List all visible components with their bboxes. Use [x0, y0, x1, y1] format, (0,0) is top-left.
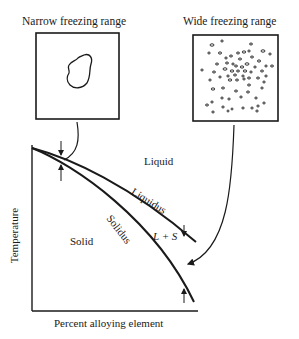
- phase-diagram-figure: [0, 0, 299, 339]
- region-label-solid: Solid: [70, 236, 93, 247]
- narrow-range-title: Narrow freezing range: [22, 16, 126, 28]
- single-grain-blob: [67, 55, 91, 88]
- x-axis-label: Percent alloying element: [54, 318, 163, 329]
- region-label-liquid: Liquid: [144, 156, 173, 167]
- narrow-range-microstructure-box: [36, 33, 119, 119]
- wide-range-microstructure-box: [193, 35, 278, 121]
- region-label-mushy-zone: L + S: [153, 231, 177, 242]
- wide-range-title: Wide freezing range: [183, 16, 276, 28]
- wide-panel-connector-arrow: [188, 125, 234, 264]
- narrow-panel-connector: [64, 122, 78, 160]
- dispersed-particles: [201, 40, 274, 113]
- y-axis-label: Temperature: [9, 208, 20, 263]
